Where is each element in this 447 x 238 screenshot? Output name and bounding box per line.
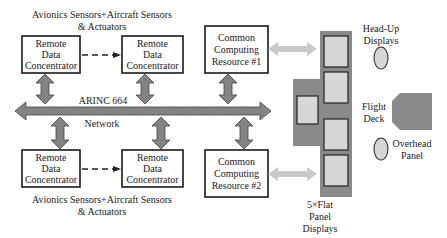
ccr2-box: Common Computing Resource #2 xyxy=(205,150,268,197)
bus-link-arrow-ccr1 xyxy=(219,74,237,104)
display-screen-3 xyxy=(297,96,318,124)
flat-panel-label-3: Displays xyxy=(303,223,338,234)
svg-text:Concentrator: Concentrator xyxy=(126,174,179,185)
rdc-box-top-left: Remote Data Concentrator xyxy=(22,36,80,73)
ccr2-display-link-arrow xyxy=(268,167,317,181)
svg-text:Remote: Remote xyxy=(35,38,67,49)
head-up-label-1: Head-Up xyxy=(363,23,400,34)
svg-text:Common: Common xyxy=(218,156,255,167)
lower-display-ellipse xyxy=(374,138,388,160)
svg-text:Resource #1: Resource #1 xyxy=(212,56,262,67)
ccr1-box: Common Computing Resource #1 xyxy=(205,26,268,73)
svg-text:Computing: Computing xyxy=(214,168,259,179)
bus-link-arrow-rdc-bottom-right xyxy=(152,117,170,149)
network-label-1: ARINC 664 xyxy=(79,95,128,106)
overhead-panel-shape xyxy=(392,93,432,130)
flight-deck-label-2: Deck xyxy=(363,113,384,124)
svg-text:Concentrator: Concentrator xyxy=(25,60,78,71)
dashed-arrow-top xyxy=(82,52,121,58)
dashed-arrow-bottom xyxy=(82,166,121,172)
svg-text:Data: Data xyxy=(42,163,61,174)
head-up-label-2: Displays xyxy=(364,35,399,46)
bus-link-arrow-rdc-top-left xyxy=(36,74,54,104)
svg-text:Data: Data xyxy=(143,163,162,174)
display-screen-1 xyxy=(324,36,348,67)
overhead-label-2: Panel xyxy=(401,150,423,161)
svg-text:Concentrator: Concentrator xyxy=(25,174,78,185)
display-screen-4 xyxy=(324,119,348,150)
ima-architecture-diagram: Avionics Sensors+Aircraft Sensors & Actu… xyxy=(0,0,447,238)
overhead-label-1: Overhead xyxy=(393,138,432,149)
head-up-display-ellipse xyxy=(374,47,388,69)
network-label-2: Network xyxy=(85,118,120,129)
bus-link-arrow-rdc-bottom-left xyxy=(51,117,69,149)
svg-text:Concentrator: Concentrator xyxy=(126,60,179,71)
display-screen-2 xyxy=(324,72,348,103)
rdc-box-bottom-right: Remote Data Concentrator xyxy=(122,150,183,187)
flat-panel-label-2: Panel xyxy=(309,211,331,222)
bus-link-arrow-rdc-top-right xyxy=(136,74,154,104)
flight-deck-label-1: Flight xyxy=(362,101,386,112)
svg-text:Data: Data xyxy=(42,49,61,60)
rdc-box-bottom-left: Remote Data Concentrator xyxy=(22,150,80,187)
svg-text:Common: Common xyxy=(218,32,255,43)
top-sensors-label-1: Avionics Sensors+Aircraft Sensors xyxy=(32,9,172,20)
svg-text:Data: Data xyxy=(143,49,162,60)
bus-link-arrow-ccr2 xyxy=(235,117,253,149)
svg-text:Remote: Remote xyxy=(35,152,67,163)
svg-text:Remote: Remote xyxy=(137,38,169,49)
svg-text:Remote: Remote xyxy=(137,152,169,163)
svg-text:Resource #2: Resource #2 xyxy=(212,180,262,191)
flat-panel-label-1: 5×Flat xyxy=(307,199,333,210)
ccr1-display-link-arrow xyxy=(268,42,317,56)
rdc-box-top-right: Remote Data Concentrator xyxy=(122,36,183,73)
display-screen-5 xyxy=(324,155,348,186)
top-sensors-label-2: & Actuators xyxy=(78,21,127,32)
bottom-sensors-label-1: Avionics Sensors+Aircraft Sensors xyxy=(32,194,172,205)
arinc-664-network-bus xyxy=(15,102,271,120)
bottom-sensors-label-2: & Actuators xyxy=(78,206,127,217)
svg-text:Computing: Computing xyxy=(214,44,259,55)
